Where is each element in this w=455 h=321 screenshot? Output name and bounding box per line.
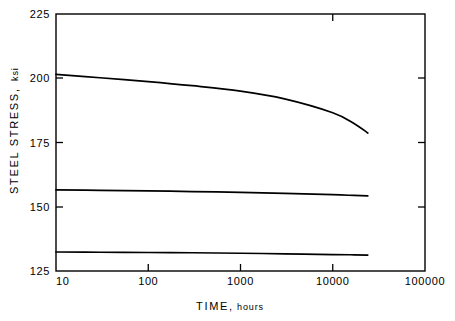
relaxation-chart-figure: 225 200 175 150 125 10 100 1000 10000 10… [0,0,455,321]
curve-middle [56,190,368,196]
x-tick-label-1000: 1000 [227,275,254,287]
y-tick-label-175: 175 [30,137,50,149]
chart-canvas: 225 200 175 150 125 10 100 1000 10000 10… [0,0,455,321]
y-axis-title-minor: ksi [10,67,20,81]
plot-area-border [56,14,425,271]
data-curves [56,74,368,255]
plot-frame [56,14,425,271]
y-axis-title-major: STEEL STRESS, [8,87,20,194]
y-tick-label-200: 200 [30,72,50,84]
y-axis-ticks [56,78,425,207]
y-tick-label-225: 225 [30,8,50,20]
x-tick-label-10000: 10000 [316,275,350,287]
y-axis-title: STEEL STRESS, ksi [8,67,20,194]
x-tick-label-100: 100 [138,275,158,287]
x-tick-label-100000: 100000 [405,275,445,287]
x-axis-ticks [148,14,333,271]
y-tick-labels: 225 200 175 150 125 [30,8,50,277]
x-axis-title-major: TIME, [196,300,234,312]
curve-upper [56,74,368,133]
x-axis-title: TIME, hours [196,300,264,312]
y-tick-label-150: 150 [30,201,50,213]
x-axis-title-minor: hours [237,302,264,312]
y-tick-label-125: 125 [30,265,50,277]
curve-lower [56,252,368,255]
x-tick-label-10: 10 [56,275,69,287]
x-tick-labels: 10 100 1000 10000 100000 [56,275,445,287]
